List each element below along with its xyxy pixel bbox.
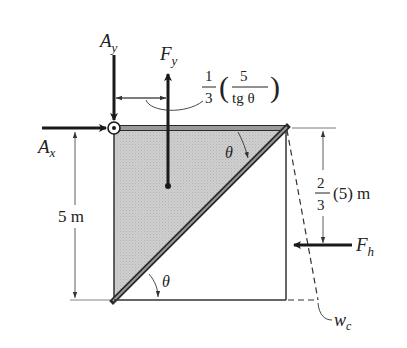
height-label: 5 m bbox=[58, 207, 84, 226]
svg-text:2: 2 bbox=[317, 175, 325, 191]
force-ay-label: Ay bbox=[98, 30, 118, 55]
free-body-diagram: Ay Ax Fy Fh 1 3 ( 5 tg θ ) 5 m bbox=[0, 0, 407, 348]
svg-text:3: 3 bbox=[317, 197, 325, 213]
top-angle-label: θ bbox=[225, 144, 233, 161]
centroid-dot bbox=[165, 183, 171, 189]
wc-label: wc bbox=[334, 310, 352, 333]
force-ax-label: Ax bbox=[36, 136, 56, 160]
fh-depth-dimension bbox=[292, 128, 336, 243]
svg-text:): ) bbox=[270, 70, 280, 104]
dashed-line bbox=[287, 130, 318, 300]
svg-text:(: ( bbox=[219, 70, 229, 104]
svg-text:3: 3 bbox=[205, 90, 213, 106]
force-fy-label: Fy bbox=[159, 43, 178, 68]
force-fh-label: Fh bbox=[355, 234, 374, 259]
svg-text:tg θ: tg θ bbox=[232, 90, 255, 106]
bottom-angle-arc bbox=[149, 274, 158, 297]
fh-depth-label: 2 3 (5) m bbox=[315, 175, 370, 213]
top-offset-dimension bbox=[116, 98, 203, 110]
pin-icon bbox=[108, 122, 120, 134]
svg-text:1: 1 bbox=[205, 68, 213, 84]
top-plate bbox=[114, 126, 286, 131]
bottom-angle-label: θ bbox=[162, 273, 170, 290]
svg-text:5: 5 bbox=[240, 68, 248, 84]
svg-text:(5) m: (5) m bbox=[333, 184, 370, 203]
top-offset-label: 1 3 ( 5 tg θ ) bbox=[202, 68, 280, 106]
wc-leader bbox=[318, 303, 332, 320]
